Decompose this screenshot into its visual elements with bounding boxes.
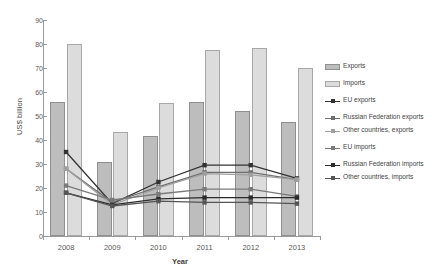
bar-imports-2009 xyxy=(113,132,128,236)
x-axis-tick xyxy=(135,236,136,240)
x-axis-tick-label: 2012 xyxy=(227,243,275,252)
bar-imports-2011 xyxy=(205,50,220,236)
y-axis-tick-label: 0 xyxy=(7,233,43,240)
y-axis-tick-label: 60 xyxy=(7,89,43,96)
y-axis-tick-label: 40 xyxy=(7,137,43,144)
legend-item-eu-exports[interactable]: EU exports xyxy=(325,96,437,106)
legend-label: Russian Federation exports xyxy=(343,113,424,121)
legend-item-imports[interactable]: Imports xyxy=(325,79,437,89)
legend-label: Imports xyxy=(343,79,365,87)
legend-label: Other countries, exports xyxy=(343,126,413,134)
legend-key-icon xyxy=(325,161,341,170)
legend-key-icon xyxy=(325,97,341,106)
x-axis-tick xyxy=(182,236,183,240)
chart-legend: ExportsImportsEU exportsRussian Federati… xyxy=(325,62,437,190)
y-axis-tick-label: 70 xyxy=(7,65,43,72)
bar-exports-2013 xyxy=(281,122,296,236)
x-axis-title: Year xyxy=(130,257,230,266)
y-axis-tick-label: 10 xyxy=(7,209,43,216)
y-axis-tick-label: 20 xyxy=(7,185,43,192)
x-axis-tick xyxy=(320,236,321,240)
legend-key-icon xyxy=(325,144,341,153)
bar-exports-2009 xyxy=(97,162,112,236)
legend-item-russian-federation-exports[interactable]: Russian Federation exports xyxy=(325,113,437,123)
legend-item-other-countries-imports[interactable]: Other countries, imports xyxy=(325,173,437,183)
y-axis-tick-label: 50 xyxy=(7,113,43,120)
legend-item-exports[interactable]: Exports xyxy=(325,62,437,72)
bar-exports-2011 xyxy=(189,102,204,236)
bar-imports-2008 xyxy=(67,44,82,236)
legend-item-eu-imports[interactable]: EU imports xyxy=(325,143,437,153)
legend-key-icon xyxy=(325,127,341,136)
legend-label: Other countries, imports xyxy=(343,173,413,181)
x-axis-tick xyxy=(228,236,229,240)
bar-imports-2010 xyxy=(159,103,174,236)
bar-exports-2012 xyxy=(235,111,250,236)
bar-exports-2010 xyxy=(143,136,158,236)
legend-key-icon xyxy=(325,174,341,183)
x-axis-tick-label: 2010 xyxy=(134,243,182,252)
legend-item-russian-federation-imports[interactable]: Russian Federation imports xyxy=(325,160,437,170)
legend-label: EU imports xyxy=(343,143,376,151)
legend-label: Russian Federation imports xyxy=(343,160,424,168)
x-axis-tick xyxy=(43,236,44,240)
legend-item-other-countries-exports[interactable]: Other countries, exports xyxy=(325,126,437,136)
bar-imports-2012 xyxy=(252,48,267,236)
legend-key-icon xyxy=(325,80,341,89)
chart-container: US$ billion 0102030405060708090 20082009… xyxy=(0,0,437,271)
x-axis-tick-label: 2008 xyxy=(42,243,90,252)
y-axis-tick-label: 90 xyxy=(7,17,43,24)
x-axis-tick-label: 2013 xyxy=(273,243,321,252)
x-axis-tick xyxy=(89,236,90,240)
legend-label: Exports xyxy=(343,62,365,70)
x-axis-tick-label: 2011 xyxy=(181,243,229,252)
legend-key-icon xyxy=(325,114,341,123)
legend-key-icon xyxy=(325,63,341,72)
bars-layer xyxy=(43,20,320,236)
x-axis-tick-label: 2009 xyxy=(88,243,136,252)
y-axis-tick-label: 80 xyxy=(7,41,43,48)
bar-imports-2013 xyxy=(298,68,313,236)
bar-exports-2008 xyxy=(50,102,65,236)
legend-label: EU exports xyxy=(343,96,376,104)
x-axis-tick xyxy=(274,236,275,240)
y-axis-tick-label: 30 xyxy=(7,161,43,168)
